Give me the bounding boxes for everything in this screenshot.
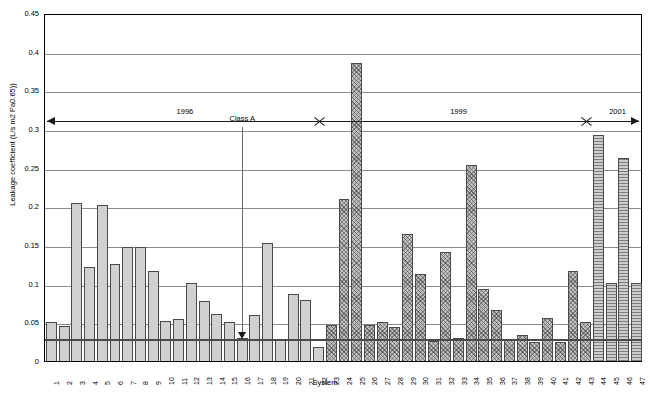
bar-system-14: [211, 314, 222, 361]
bar-system-26: [364, 325, 375, 361]
bar-system-15: [224, 322, 235, 361]
period-annotation: 1996 1999 2001: [45, 109, 641, 135]
bar-system-43: [580, 322, 591, 361]
bar-system-9: [148, 271, 159, 361]
bar-system-23: [326, 325, 337, 361]
bar-system-21: [300, 300, 311, 361]
bar-series: [45, 15, 641, 361]
bar-system-44: [593, 135, 604, 361]
bar-system-10: [160, 321, 171, 361]
y-axis-tick-label: 0.2: [3, 203, 39, 211]
bar-system-3: [71, 203, 82, 361]
bar-system-42: [568, 271, 579, 361]
arrow-right-icon: [631, 117, 639, 125]
arrow-left-icon: [47, 117, 55, 125]
chart-canvas: 00.050.10.150.20.250.30.350.40.45 Leakag…: [0, 0, 650, 397]
bar-system-7: [122, 247, 133, 361]
bar-system-31: [428, 341, 439, 361]
bar-system-19: [275, 339, 286, 361]
bar-system-30: [415, 274, 426, 361]
bar-system-46: [618, 158, 629, 361]
bar-system-24: [339, 199, 350, 361]
y-axis-tick-label: 0.05: [3, 319, 39, 327]
y-axis-tick-label: 0.15: [3, 242, 39, 250]
period-label-2001: 2001: [588, 107, 648, 116]
bar-system-25: [351, 63, 362, 362]
bar-system-32: [440, 252, 451, 361]
bar-system-39: [529, 342, 540, 361]
bar-system-35: [478, 289, 489, 361]
period-label-1999: 1999: [429, 107, 489, 116]
bar-system-4: [84, 267, 95, 361]
bar-system-16: [237, 338, 248, 361]
plot-area: Class A 1996 1999 2001: [44, 14, 642, 362]
bar-system-2: [59, 326, 70, 361]
bar-system-36: [491, 310, 502, 361]
bar-system-22: [313, 347, 324, 361]
class-a-threshold-line: [45, 339, 641, 341]
bar-system-34: [466, 165, 477, 361]
bar-system-41: [555, 342, 566, 361]
y-axis-tick-label: 0.45: [3, 10, 39, 18]
bar-system-28: [389, 327, 400, 361]
y-axis-tick-label: 0.4: [3, 49, 39, 57]
bar-system-6: [110, 264, 121, 361]
y-axis-tick-label: 0.25: [3, 165, 39, 173]
bar-system-33: [453, 338, 464, 361]
bar-system-8: [135, 247, 146, 361]
period-break-icon-1: [313, 115, 326, 128]
bar-system-1: [46, 322, 57, 361]
period-label-1996: 1996: [155, 107, 215, 116]
bar-system-18: [262, 243, 273, 361]
bar-system-27: [377, 322, 388, 361]
y-axis-tick-label: 0.35: [3, 87, 39, 95]
bar-system-47: [631, 283, 642, 361]
bar-system-5: [97, 205, 108, 361]
y-axis-tick-label: 0: [3, 358, 39, 366]
period-break-icon-2: [580, 115, 593, 128]
y-axis-title: Leakage coefficient (L/s m2 Pa0.65)): [8, 35, 17, 255]
y-axis-tick-label: 0.3: [3, 126, 39, 134]
bar-system-13: [199, 301, 210, 361]
y-axis-tick-label: 0.1: [3, 281, 39, 289]
bar-system-45: [606, 283, 617, 361]
bar-system-12: [186, 283, 197, 361]
x-axis-title: System: [0, 378, 650, 387]
bar-system-17: [249, 315, 260, 361]
bar-system-29: [402, 234, 413, 361]
bar-system-20: [288, 294, 299, 361]
bar-system-37: [504, 339, 515, 361]
period-axis-line: [47, 121, 639, 122]
